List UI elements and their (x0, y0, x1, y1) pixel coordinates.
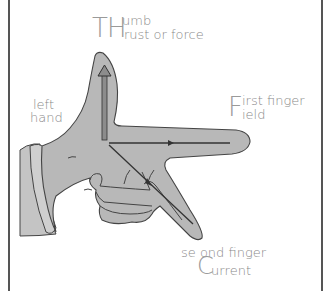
field-label: ield (242, 108, 265, 121)
first-finger-initial: F (228, 94, 242, 120)
hand-body (42, 52, 251, 239)
thumb-label: umb (122, 14, 151, 27)
current-label: urrent (211, 264, 251, 277)
thumb-initials: TH (92, 15, 125, 41)
left-hand-illustration (0, 0, 328, 291)
thrust-label: rust or force (124, 28, 204, 41)
first-finger-label: irst finger (242, 94, 305, 107)
second-finger-label: se ond finger (181, 246, 266, 259)
hand-label: hand (30, 111, 63, 124)
diagram-frame: TH umb rust or force left hand F irst fi… (0, 0, 328, 291)
